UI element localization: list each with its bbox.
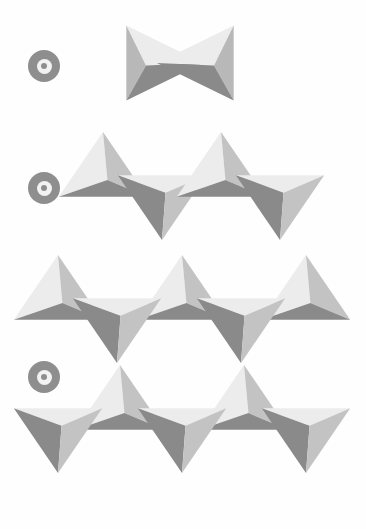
tetrahedron-down	[138, 408, 226, 473]
tetrahedron-down	[14, 408, 102, 473]
marker-inner-ring	[37, 370, 52, 385]
marker-inner-ring	[37, 59, 52, 74]
tetrahedra-canvas	[0, 0, 366, 529]
bullseye-marker-icon	[28, 361, 60, 393]
tetrahedron-right	[157, 26, 234, 101]
marker-center-dot	[41, 63, 47, 69]
tetrahedral-connectivity-figure	[0, 0, 366, 529]
tetrahedron-down	[197, 298, 285, 363]
tetrahedron-down	[236, 175, 324, 240]
marker-inner-ring	[37, 181, 52, 196]
tetrahedron-down	[73, 298, 161, 363]
tetrahedron-down	[262, 408, 350, 473]
marker-center-dot	[41, 374, 47, 380]
bullseye-marker-icon	[28, 172, 60, 204]
bullseye-marker-icon	[28, 50, 60, 82]
marker-center-dot	[41, 185, 47, 191]
